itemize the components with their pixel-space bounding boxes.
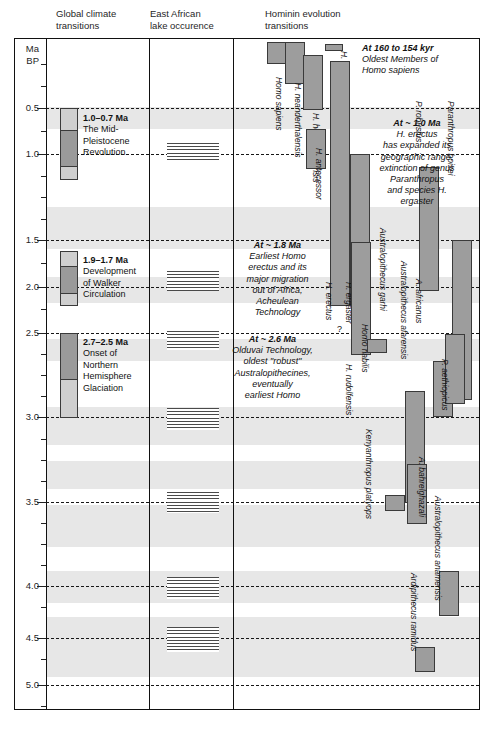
tick-minor: [41, 375, 46, 376]
annotation-oldest-homo-sapiens: At 160 to 154 kyr Oldest Members of Homo…: [362, 43, 480, 77]
species-label-h-rudolfensis: H. rudolfensis: [344, 364, 353, 415]
tick-minor: [41, 565, 46, 566]
climate-bar-segment: [60, 166, 78, 180]
tick-minor: [41, 309, 46, 310]
climate-bar-segment: [60, 108, 78, 131]
axis-tick-label: 4.0: [15, 580, 39, 591]
climate-event-mid-pleistocene: 1.0–0.7 Ma The Mid- Pleistocene Revoluti…: [83, 113, 153, 159]
axis-separator: [46, 39, 47, 709]
species-bar-h-neanderthalensis: [285, 42, 305, 84]
annotation-body: H. erectus has expanded its geographic r…: [379, 129, 454, 206]
tick-minor: [41, 396, 46, 397]
species-label-kenyanthropus-platyops: Kenyanthropus platyops: [364, 429, 373, 519]
lake-band: [167, 627, 219, 652]
species-label-homo-sapiens: Homo sapiens: [274, 77, 283, 131]
axis-unit-bp: BP: [15, 55, 39, 66]
axis-tick-label: 2.5: [15, 327, 39, 338]
lake-band: [167, 331, 219, 350]
lake-band: [167, 408, 219, 430]
tick-minor: [41, 523, 46, 524]
climate-event-desc: The Mid- Pleistocene Revolution: [83, 124, 130, 157]
axis-tick-label: 3.0: [15, 411, 39, 422]
annotation-body: Oldest Members of Homo sapiens: [362, 54, 438, 75]
tick-minor: [41, 197, 46, 198]
annotation-title: At ~ 1.0 Ma: [393, 118, 440, 128]
annotation-title: At ~ 1.8 Ma: [254, 240, 301, 250]
header-global-climate: Global climate transitions: [56, 8, 151, 31]
tick-minor: [41, 706, 46, 707]
climate-event-range: 2.7–2.5 Ma: [83, 337, 128, 347]
annotation-body: Earliest Homo erectus and its major migr…: [246, 251, 308, 317]
species-label-a-bahrelghazali: A. bahrelghazali: [417, 457, 426, 517]
annotation-2-6-ma: At ~ 2.6 Ma Olduvai Technology, oldest "…: [215, 334, 330, 401]
species-label-a-africanus: A. africanus: [414, 279, 423, 323]
axis-tick-label: 3.5: [15, 496, 39, 507]
header-hominin-evolution: Hominin evolution transitions: [265, 8, 385, 31]
climate-event-range: 1.0–0.7 Ma: [83, 113, 128, 123]
annotation-title: At 160 to 154 kyr: [362, 43, 434, 53]
lake-band: [167, 492, 219, 513]
axis-tick-label: 5.0: [15, 679, 39, 690]
species-bar-h-erectus: [330, 61, 350, 306]
tick-minor: [41, 86, 46, 87]
species-label-ardipithecus-ramidus: Ardipithecus ramidus: [409, 573, 418, 651]
tick-minor: [41, 460, 46, 461]
time-axis: Ma BP 0.5 1.0 1.5 2.0 2.5 3.0 3.5 4.0 4.…: [15, 39, 46, 709]
climate-bar-segment: [60, 266, 78, 294]
climate-bar-segment: [60, 333, 78, 380]
axis-tick-label: 1.0: [15, 148, 39, 159]
species-bar-homo-sapiens: [267, 42, 287, 64]
climate-bar-segment: [60, 379, 78, 418]
annotation-title: At ~ 2.6 Ma: [249, 334, 296, 344]
climate-event-desc: Onset of Northern Hemisphere Glaciation: [83, 348, 132, 392]
species-bar-h-rudolfensis: [367, 339, 387, 353]
climate-bar-segment: [60, 251, 78, 267]
tick-minor: [41, 354, 46, 355]
species-label-australopithecus-anamensis: Australopithecus anamensis: [433, 496, 442, 601]
lake-band: [167, 577, 219, 599]
tick-minor: [41, 263, 46, 264]
climate-bar-segment: [60, 293, 78, 306]
tick-minor: [41, 64, 46, 65]
climate-event-nh-glaciation: 2.7–2.5 Ma Onset of Northern Hemisphere …: [83, 337, 153, 394]
species-bar-h-heidelbergensis: [303, 55, 323, 110]
lake-band: [167, 271, 219, 291]
guide-5.0: [46, 685, 479, 686]
tick-minor: [41, 131, 46, 132]
climate-event-walker-circulation: 1.9–1.7 Ma Development of Walker Circula…: [83, 255, 153, 301]
climate-event-range: 1.9–1.7 Ma: [83, 255, 128, 265]
species-label-h-antecessor: H. antecessor: [314, 148, 323, 200]
tick-minor: [41, 544, 46, 545]
species-label-p-aethiopicus: P. aethiopicus: [440, 359, 449, 411]
species-label-australopithecus-afarensis: Australopithecus afarensis: [399, 261, 408, 359]
tick-minor: [41, 481, 46, 482]
figure-root: Global climate transitions East African …: [0, 0, 495, 731]
axis-unit-ma: Ma: [15, 43, 39, 54]
tick-minor: [41, 219, 46, 220]
tick-minor: [41, 607, 46, 608]
annotation-1-0-ma: At ~ 1.0 Ma H. erectus has expanded its …: [363, 118, 471, 208]
tick-minor: [41, 659, 46, 660]
tick-minor: [41, 176, 46, 177]
tick-minor: [41, 439, 46, 440]
annotation-body: Olduvai Technology, oldest "robust" Aust…: [232, 345, 313, 400]
axis-tick-label: 4.5: [15, 632, 39, 643]
lake-band: [167, 143, 219, 160]
header-east-african-lake: East African lake occurence: [150, 8, 250, 31]
chart-frame: Ma BP 0.5 1.0 1.5 2.0 2.5 3.0 3.5 4.0 4.…: [14, 38, 480, 710]
axis-tick-label: 1.5: [15, 234, 39, 245]
axis-tick-label: 0.5: [15, 102, 39, 113]
species-bar-kenyanthropus-platyops: [385, 495, 405, 511]
species-bar-h-floresiensis: [325, 44, 343, 51]
species-label-australopithecus-garhi: Australopithecus garhi: [378, 228, 387, 311]
climate-bar-segment: [60, 130, 78, 167]
unknown-marker: ?: [337, 324, 342, 334]
species-label-h-neanderthalensis: H. neanderthalensis: [293, 83, 302, 158]
annotation-1-8-ma: At ~ 1.8 Ma Earliest Homo erectus and it…: [225, 240, 330, 318]
axis-tick-label: 2.0: [15, 281, 39, 292]
climate-event-desc: Development of Walker Circulation: [83, 266, 136, 299]
